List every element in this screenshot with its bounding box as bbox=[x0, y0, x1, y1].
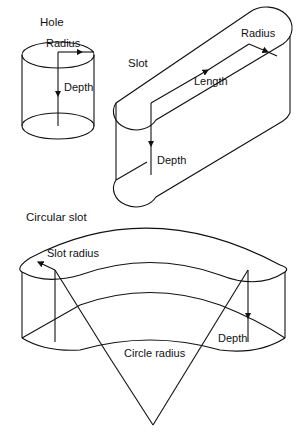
hole-radius-label: Radius bbox=[46, 38, 80, 49]
slot-title: Slot bbox=[128, 58, 148, 70]
circular-slot-title: Circular slot bbox=[26, 212, 87, 224]
circle-radius-label: Circle radius bbox=[124, 348, 185, 359]
circular-slot-depth-label: Depth bbox=[218, 333, 247, 344]
slot-radius-label: Radius bbox=[241, 28, 275, 39]
slot-radius-label: Slot radius bbox=[47, 248, 99, 259]
machining-features-diagram: Hole Radius Depth Slot Radius Length Dep… bbox=[0, 0, 302, 439]
slot-depth-label: Depth bbox=[157, 155, 186, 166]
hole-depth-label: Depth bbox=[64, 82, 93, 93]
slot-length-label: Length bbox=[194, 76, 228, 87]
hole-title: Hole bbox=[40, 17, 64, 29]
